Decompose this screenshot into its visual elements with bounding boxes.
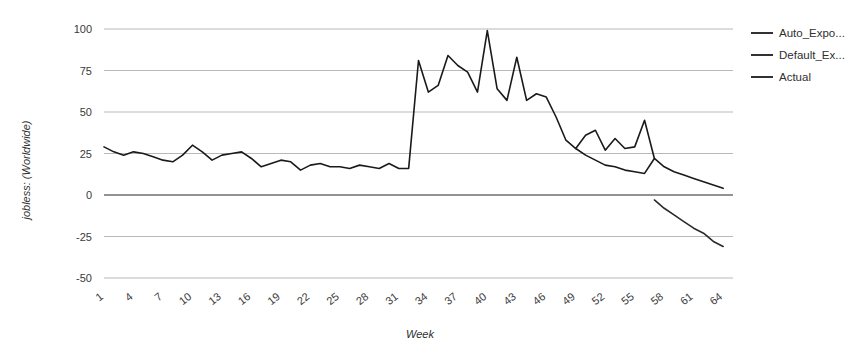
- x-axis-tick-labels: 1471013161922252831343740434649525558616…: [93, 290, 724, 307]
- x-tick-label: 61: [678, 290, 695, 307]
- y-tick-label: 50: [80, 106, 92, 118]
- x-tick-label: 55: [619, 290, 636, 307]
- x-tick-label: 28: [354, 290, 371, 307]
- x-tick-label: 4: [123, 290, 135, 303]
- y-tick-label: -50: [76, 272, 92, 284]
- y-axis-tick-labels: 1007550250-25-50: [74, 23, 92, 284]
- series-line: [654, 200, 723, 246]
- legend-item-label[interactable]: Actual: [779, 71, 811, 83]
- x-tick-label: 34: [413, 290, 430, 307]
- legend-item-label[interactable]: Auto_Expo...: [779, 27, 845, 39]
- legend: Auto_Expo...Default_Ex...Actual: [751, 27, 845, 83]
- x-tick-label: 40: [471, 290, 488, 307]
- y-tick-label: 25: [80, 148, 92, 160]
- x-tick-label: 37: [442, 290, 459, 307]
- x-tick-label: 10: [177, 290, 194, 307]
- legend-item-label[interactable]: Default_Ex...: [779, 49, 845, 61]
- x-tick-label: 16: [236, 290, 253, 307]
- y-tick-label: -25: [76, 231, 92, 243]
- series-line: [104, 31, 654, 170]
- x-tick-label: 46: [530, 290, 547, 307]
- x-tick-label: 52: [589, 290, 606, 307]
- x-tick-label: 19: [265, 290, 282, 307]
- data-series-group: [104, 31, 723, 247]
- chart-container: 1007550250-25-50 14710131619222528313437…: [0, 0, 868, 355]
- x-tick-label: 22: [295, 290, 312, 307]
- y-tick-label: 100: [74, 23, 92, 35]
- x-tick-label: 31: [383, 290, 400, 307]
- y-axis-title: jobless: (Worldwide): [20, 120, 32, 221]
- line-chart: 1007550250-25-50 14710131619222528313437…: [0, 0, 868, 355]
- series-line: [576, 149, 723, 189]
- x-axis-title: Week: [406, 328, 434, 340]
- x-tick-label: 64: [707, 290, 724, 307]
- x-tick-label: 25: [324, 290, 341, 307]
- y-tick-label: 75: [80, 65, 92, 77]
- x-tick-label: 49: [560, 290, 577, 307]
- y-tick-label: 0: [86, 189, 92, 201]
- x-tick-label: 58: [648, 290, 665, 307]
- x-tick-label: 13: [206, 290, 223, 307]
- x-tick-label: 7: [152, 290, 164, 303]
- x-tick-label: 1: [93, 290, 105, 303]
- x-tick-label: 43: [501, 290, 518, 307]
